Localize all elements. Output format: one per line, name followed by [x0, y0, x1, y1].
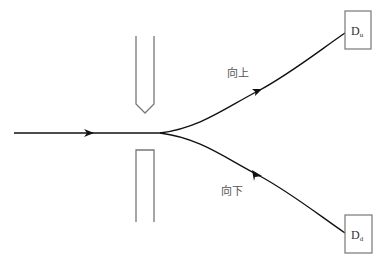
upper-arrow-icon: [252, 89, 262, 96]
upper-path-label: 向上: [227, 66, 249, 80]
lower-plate: [136, 150, 154, 222]
lower-beam-path: [160, 133, 345, 233]
upper-beam-path: [160, 33, 345, 133]
diagram-canvas: 向上 向下 Du Dd: [0, 0, 384, 267]
upper-plate: [136, 36, 154, 113]
lower-arrow-icon: [252, 170, 262, 181]
lower-path-label: 向下: [221, 184, 243, 198]
